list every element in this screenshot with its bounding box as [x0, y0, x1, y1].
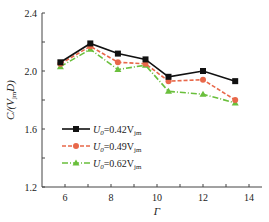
- data-point-marker: [232, 78, 238, 84]
- data-point-marker: [115, 59, 121, 65]
- x-axis-title: Γ: [153, 205, 161, 217]
- legend-label: U0=0.49Vjm: [93, 141, 142, 154]
- y-axis-title: C/(VjmD): [4, 80, 18, 120]
- data-point-marker: [57, 59, 63, 65]
- data-point-marker: [200, 91, 207, 97]
- x-tick-label: 14: [244, 192, 254, 203]
- data-point-marker: [200, 68, 206, 74]
- axes: 1.21.62.02.468101214ΓC/(VjmD): [4, 8, 262, 218]
- legend-label: U0=0.62Vjm: [93, 158, 142, 171]
- data-point-marker: [166, 74, 172, 80]
- legend-marker: [73, 143, 79, 149]
- y-tick-label: 1.6: [25, 124, 38, 135]
- x-tick-label: 6: [63, 192, 68, 203]
- x-tick-label: 8: [109, 192, 114, 203]
- data-point-marker: [87, 40, 93, 46]
- data-point-marker: [232, 97, 238, 103]
- legend: U0=0.42VjmU0=0.49VjmU0=0.62Vjm: [62, 124, 142, 171]
- data-point-marker: [200, 77, 206, 83]
- legend-item: U0=0.42Vjm: [62, 124, 142, 137]
- line-chart: 1.21.62.02.468101214ΓC/(VjmD) U0=0.42Vjm…: [0, 0, 269, 222]
- data-point-marker: [143, 56, 149, 62]
- x-tick-label: 10: [152, 192, 162, 203]
- y-tick-label: 1.2: [25, 182, 38, 193]
- series-square: [57, 40, 238, 84]
- series-triangle: [57, 46, 239, 106]
- legend-item: U0=0.49Vjm: [62, 141, 142, 154]
- legend-marker: [73, 126, 79, 132]
- x-tick-label: 12: [198, 192, 208, 203]
- y-tick-label: 2.4: [25, 8, 38, 19]
- legend-label: U0=0.42Vjm: [93, 124, 142, 137]
- data-point-marker: [115, 51, 121, 57]
- series-group: [57, 40, 239, 105]
- legend-item: U0=0.62Vjm: [62, 158, 142, 171]
- y-tick-label: 2.0: [25, 66, 38, 77]
